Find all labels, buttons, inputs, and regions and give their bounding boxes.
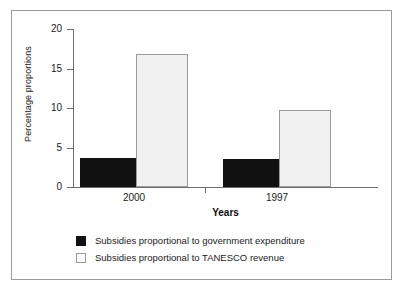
y-tick-label-0: 0 — [32, 182, 62, 192]
x-tick-group-separator — [205, 188, 206, 193]
y-tick-10 — [67, 108, 74, 109]
y-tick-20 — [67, 29, 74, 30]
figure-frame: Percentage proportions 20 15 10 5 0 2000… — [11, 10, 392, 280]
x-label-2000: 2000 — [94, 192, 174, 204]
legend-label-government-expenditure: Subsidies proportional to government exp… — [95, 235, 305, 246]
legend-label-tanesco-revenue: Subsidies proportional to TANESCO revenu… — [95, 252, 284, 263]
legend-swatch-dark-icon — [76, 236, 86, 246]
y-tick-label-20: 20 — [32, 24, 62, 34]
y-tick-0 — [67, 187, 74, 188]
x-label-1997: 1997 — [237, 192, 317, 204]
x-axis-line — [73, 187, 378, 188]
y-tick-label-5: 5 — [32, 143, 62, 153]
bar-2000-tanesco-revenue[interactable] — [136, 54, 188, 187]
x-axis-title: Years — [73, 207, 378, 218]
legend-item-tanesco-revenue[interactable]: Subsidies proportional to TANESCO revenu… — [76, 249, 376, 266]
bar-1997-tanesco-revenue[interactable] — [279, 110, 331, 187]
y-axis-title: Percentage proportions — [23, 34, 33, 154]
y-tick-5 — [67, 148, 74, 149]
y-tick-label-10: 10 — [32, 103, 62, 113]
legend-item-government-expenditure[interactable]: Subsidies proportional to government exp… — [76, 232, 376, 249]
chart-legend: Subsidies proportional to government exp… — [76, 232, 376, 266]
bar-2000-government-expenditure[interactable] — [80, 158, 136, 187]
y-tick-15 — [67, 69, 74, 70]
legend-swatch-light-icon — [76, 253, 86, 263]
bar-1997-government-expenditure[interactable] — [223, 159, 279, 187]
y-tick-label-15: 15 — [32, 64, 62, 74]
